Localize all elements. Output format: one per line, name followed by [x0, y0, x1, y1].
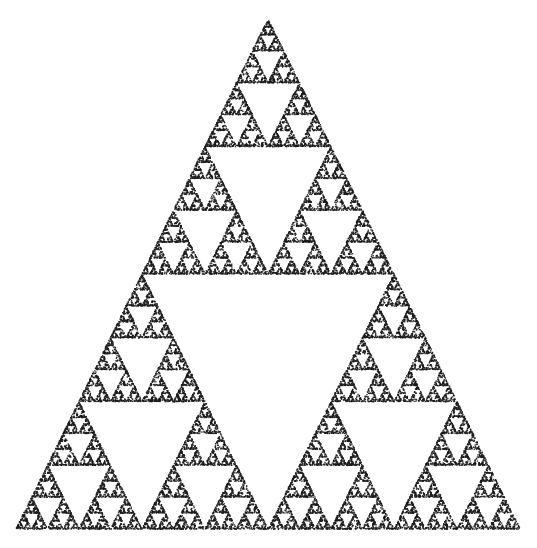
fractal-figure	[0, 0, 537, 548]
sierpinski-triangle-canvas	[0, 0, 537, 548]
